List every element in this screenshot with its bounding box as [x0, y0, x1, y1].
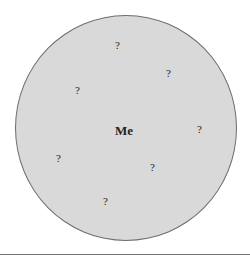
me-label: Me — [115, 124, 133, 137]
unknown-mark: ? — [115, 40, 120, 51]
unknown-mark: ? — [103, 196, 108, 207]
unknown-mark: ? — [150, 162, 155, 173]
unknown-mark: ? — [197, 124, 202, 135]
unknown-mark: ? — [75, 85, 80, 96]
unknown-mark: ? — [166, 68, 171, 79]
bottom-rule — [0, 254, 250, 255]
unknown-mark: ? — [56, 153, 61, 164]
